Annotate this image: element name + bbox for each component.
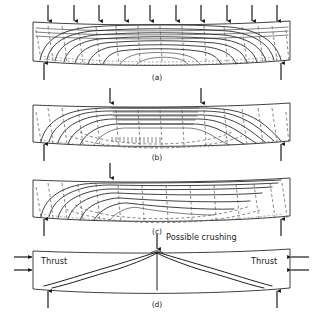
panel-b-bottom-crack-hatching <box>112 137 160 143</box>
panel-c: (c) <box>33 163 290 236</box>
thrust-label-left: Thrust <box>40 256 68 266</box>
panel-b: (b) <box>33 88 290 162</box>
thrust-arrows-left <box>14 257 32 270</box>
panel-b-constant-band <box>112 108 199 124</box>
panel-label-d: (d) <box>152 300 163 309</box>
thrust-label-right: Thrust <box>250 256 278 266</box>
panel-d: Possible crushing Thrust Thrust <box>14 232 309 309</box>
panel-a: (a) <box>33 5 290 82</box>
thrust-arrows-right <box>291 257 309 270</box>
panel-b-load-arrows <box>110 88 201 103</box>
panel-d-arch-lines <box>44 252 272 288</box>
panel-c-tension-trajectories <box>36 183 287 223</box>
panel-label-b: (b) <box>152 153 163 162</box>
panel-label-a: (a) <box>152 73 163 82</box>
figure-root: (a) <box>0 0 314 323</box>
stress-trajectory-figure: (a) <box>0 0 314 323</box>
panel-a-load-arrows <box>48 5 277 21</box>
possible-crushing-label: Possible crushing <box>166 232 237 242</box>
